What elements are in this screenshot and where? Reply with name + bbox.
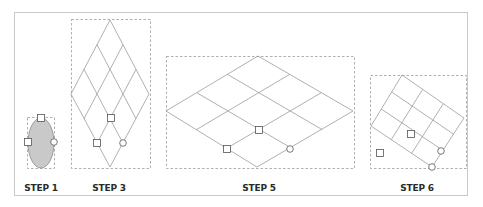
step3-grid (71, 20, 149, 167)
square-handle-icon[interactable] (256, 127, 263, 134)
step5-bounding-box (167, 57, 355, 169)
steps-diagram (0, 0, 483, 207)
square-handle-icon[interactable] (224, 146, 231, 153)
step6-bounding-box (371, 76, 467, 169)
step5-label: STEP 5 (242, 183, 276, 193)
circle-handle-icon[interactable] (120, 140, 127, 147)
step6-label: STEP 6 (400, 183, 434, 193)
square-handle-icon[interactable] (377, 150, 384, 157)
square-handle-icon[interactable] (25, 139, 32, 146)
step5-handles (224, 127, 294, 153)
step5-grid (166, 56, 353, 167)
circle-handle-icon[interactable] (429, 164, 436, 171)
square-handle-icon[interactable] (108, 115, 115, 122)
circle-handle-icon[interactable] (51, 139, 58, 146)
step3-bounding-box (72, 20, 151, 169)
step6-grid (371, 75, 464, 167)
square-handle-icon[interactable] (38, 115, 45, 122)
step1-shape (25, 115, 58, 169)
circle-handle-icon[interactable] (438, 148, 445, 155)
step3-label: STEP 3 (92, 183, 126, 193)
circle-handle-icon[interactable] (287, 146, 294, 153)
square-handle-icon[interactable] (94, 140, 101, 147)
step1-label: STEP 1 (24, 183, 58, 193)
square-handle-icon[interactable] (408, 131, 415, 138)
step3-handles (94, 115, 127, 147)
